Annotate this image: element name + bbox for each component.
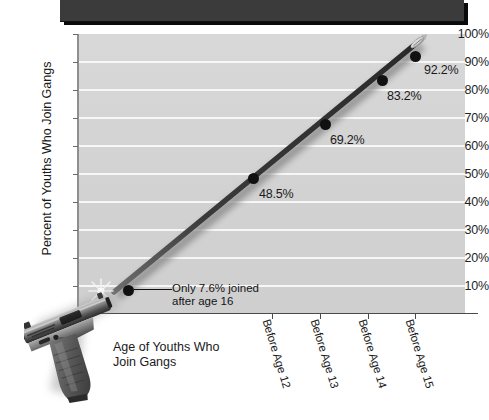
annotation-text: Only 7.6% joined after age 16 (172, 282, 259, 308)
y-tick-label: 40% (417, 196, 489, 209)
y-tick-mark (73, 202, 78, 203)
gridline (78, 201, 465, 203)
data-point (248, 173, 259, 184)
y-tick-label: 50% (417, 168, 489, 181)
y-tick-mark (73, 118, 78, 119)
y-tick-mark (73, 258, 78, 259)
y-tick-label: 100% (417, 28, 489, 41)
annotation-line-2: after age 16 (172, 295, 259, 308)
y-tick-label: 60% (417, 140, 489, 153)
data-point (320, 119, 331, 130)
gridline (78, 173, 465, 175)
y-tick-label: 70% (417, 112, 489, 125)
x-tick-label: Before Age 14 (356, 318, 388, 390)
x-tick-label: Before Age 12 (260, 318, 292, 390)
handgun-image (24, 282, 140, 404)
x-tick-label: Before Age 15 (403, 318, 435, 390)
gridline (78, 257, 465, 259)
chart-screenshot: 100% 90% 80% 70% 60% 50% 40% 30% 20% 10%… (0, 0, 489, 420)
gridline (78, 61, 465, 63)
y-tick-mark (73, 230, 78, 231)
y-tick-mark (73, 174, 78, 175)
x-tick-label: Before Age 13 (308, 318, 340, 390)
data-point (410, 51, 421, 62)
gridline (78, 117, 465, 119)
data-point-label: 92.2% (424, 64, 458, 77)
y-tick-mark (73, 34, 78, 35)
y-tick-mark (73, 62, 78, 63)
data-point-label: 48.5% (259, 188, 293, 201)
y-axis-title: Percent of Youths Who Join Gangs (41, 34, 54, 284)
gridline (78, 229, 465, 231)
y-tick-label: 20% (417, 252, 489, 265)
top-banner (60, 0, 464, 22)
data-point (377, 75, 388, 86)
y-tick-mark (73, 90, 78, 91)
data-point-label: 83.2% (387, 90, 421, 103)
plot-area (78, 34, 465, 313)
y-tick-label: 30% (417, 224, 489, 237)
data-point-label: 69.2% (330, 134, 364, 147)
y-tick-label: 10% (417, 280, 489, 293)
gridline (78, 145, 465, 147)
annotation-line-1: Only 7.6% joined (172, 282, 259, 295)
y-tick-label: 80% (417, 84, 489, 97)
y-tick-mark (73, 146, 78, 147)
